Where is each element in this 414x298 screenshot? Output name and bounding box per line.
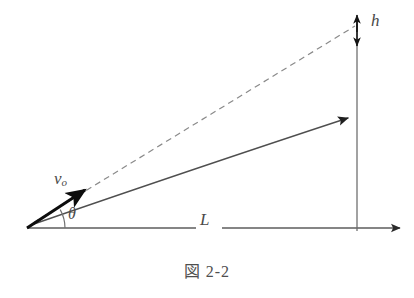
figure-caption: 図 2-2 <box>0 258 414 282</box>
launch-angle-arc <box>60 210 65 228</box>
figure-container: vo θ L h 図 2-2 <box>0 0 414 298</box>
projectile-motion-diagram <box>0 0 414 298</box>
initial-velocity-symbol: v <box>54 169 62 188</box>
horizontal-distance-label: L <box>200 211 209 228</box>
parabolic-trajectory-curve <box>31 118 348 225</box>
launch-angle-label: θ <box>68 206 76 222</box>
initial-velocity-subscript: o <box>62 176 68 188</box>
initial-velocity-label: vo <box>54 170 67 188</box>
height-label: h <box>371 12 380 29</box>
